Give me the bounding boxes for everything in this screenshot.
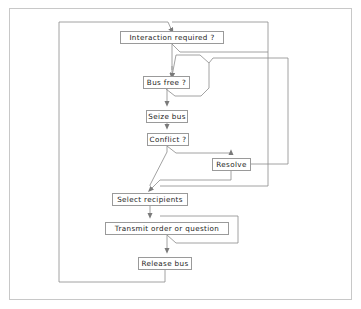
node-bus-free[interactable]: Bus free ?	[143, 76, 190, 89]
diagram-canvas: Interaction required ? Bus free ? Seize …	[0, 0, 361, 309]
node-conflict[interactable]: Conflict ?	[147, 133, 189, 146]
connector-busfree-no-loop-head	[172, 55, 176, 76]
connector-release-to-left-rail	[59, 22, 168, 282]
node-transmit-order-or-question[interactable]: Transmit order or question	[105, 222, 229, 235]
node-label: Interaction required ?	[129, 34, 214, 41]
node-label: Select recipients	[117, 196, 183, 203]
node-release-bus[interactable]: Release bus	[138, 257, 192, 270]
node-label: Conflict ?	[150, 136, 187, 143]
connector-conflict-yes-to-resolve	[167, 146, 231, 153]
node-seize-bus[interactable]: Seize bus	[146, 110, 188, 123]
connector-resolve-to-select	[150, 171, 231, 190]
node-label: Transmit order or question	[115, 225, 219, 232]
node-interaction-required[interactable]: Interaction required ?	[120, 31, 224, 44]
node-select-recipients[interactable]: Select recipients	[112, 193, 188, 206]
node-resolve[interactable]: Resolve	[212, 158, 251, 171]
node-label: Resolve	[216, 161, 246, 168]
node-label: Seize bus	[148, 113, 185, 120]
connector-entry-into-interaction	[168, 22, 172, 31]
connector-resolve-back-to-busfree	[209, 58, 288, 164]
node-label: Bus free ?	[147, 79, 186, 86]
node-label: Release bus	[141, 260, 188, 267]
